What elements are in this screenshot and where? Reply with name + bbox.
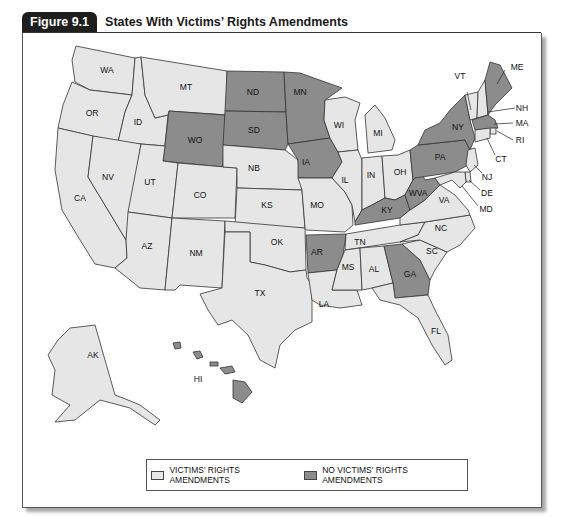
state-RI <box>490 128 496 134</box>
label-CA: CA <box>74 193 86 203</box>
label-TX: TX <box>255 288 266 298</box>
label-CO: CO <box>194 190 207 200</box>
label-PA: PA <box>435 152 446 162</box>
state-HI-oahu <box>193 351 203 359</box>
label-MS: MS <box>342 262 355 272</box>
label-WA: WA <box>100 65 114 75</box>
label-FL: FL <box>431 326 441 336</box>
label-MA: MA <box>516 118 529 128</box>
label-NB: NB <box>248 163 260 173</box>
swatch-dark-icon <box>304 471 317 480</box>
state-HI-maui <box>220 366 235 374</box>
label-NC: NC <box>435 223 447 233</box>
label-ND: ND <box>247 87 259 97</box>
leader-ma <box>494 123 513 124</box>
label-MD: MD <box>479 204 492 214</box>
state-ME <box>485 62 512 115</box>
label-WVA: WVA <box>409 188 428 198</box>
label-WI: WI <box>334 120 344 130</box>
label-MT: MT <box>180 82 192 92</box>
legend-label-amendment: VICTIMS' RIGHTS AMENDMENTS <box>169 465 295 485</box>
label-NH: NH <box>516 103 528 113</box>
label-KY: KY <box>381 205 393 215</box>
label-TN: TN <box>354 237 365 247</box>
figure-title: States With Victims’ Rights Amendments <box>105 15 348 32</box>
label-KS: KS <box>261 200 273 210</box>
label-VA: VA <box>439 195 450 205</box>
label-DE: DE <box>481 188 493 198</box>
label-WO: WO <box>188 135 203 145</box>
legend-label-no-amendment: NO VICTIMS' RIGHTS AMENDMENTS <box>322 465 463 485</box>
state-NJ <box>466 148 478 172</box>
leader-ct <box>487 138 495 155</box>
label-ME: ME <box>511 62 524 72</box>
label-MI: MI <box>373 128 382 138</box>
leader-nj <box>474 165 482 173</box>
label-NV: NV <box>102 172 114 182</box>
label-MN: MN <box>293 87 306 97</box>
us-map: WA OR CA ID NV MT WO UT AZ CO NM ND SD N… <box>22 33 540 463</box>
label-GA: GA <box>404 269 417 279</box>
figure-number-tab: Figure 9.1 <box>22 12 97 32</box>
label-SC: SC <box>426 246 438 256</box>
label-LA: LA <box>319 299 330 309</box>
label-AZ: AZ <box>142 241 153 251</box>
label-CT: CT <box>495 154 506 164</box>
label-IN: IN <box>367 170 376 180</box>
state-HI-bigisland <box>233 380 252 403</box>
leader-ri <box>497 131 513 140</box>
label-RI: RI <box>516 135 525 145</box>
label-MO: MO <box>310 200 324 210</box>
label-AK: AK <box>87 350 99 360</box>
map-legend: VICTIMS' RIGHTS AMENDMENTS NO VICTIMS' R… <box>146 459 468 491</box>
label-ID: ID <box>134 117 143 127</box>
label-HI: HI <box>194 374 203 384</box>
label-OR: OR <box>86 108 99 118</box>
label-NM: NM <box>189 248 202 258</box>
legend-item-no-amendment: NO VICTIMS' RIGHTS AMENDMENTS <box>304 465 463 485</box>
swatch-light-icon <box>151 471 164 480</box>
label-IA: IA <box>302 157 310 167</box>
label-NY: NY <box>452 122 464 132</box>
state-AK <box>48 325 160 425</box>
leader-md <box>462 186 478 206</box>
state-HI-molokai <box>210 362 218 366</box>
leader-de <box>469 180 480 190</box>
label-AR: AR <box>311 247 323 257</box>
label-OK: OK <box>271 237 284 247</box>
state-HI-kauai <box>173 342 181 349</box>
label-NJ: NJ <box>482 172 492 182</box>
legend-item-amendment: VICTIMS' RIGHTS AMENDMENTS <box>151 465 296 485</box>
label-UT: UT <box>144 177 155 187</box>
label-IL: IL <box>341 175 348 185</box>
label-SD: SD <box>248 125 260 135</box>
label-OH: OH <box>394 167 407 177</box>
figure-header: Figure 9.1 States With Victims’ Rights A… <box>22 12 348 32</box>
label-AL: AL <box>369 264 380 274</box>
label-VT: VT <box>455 71 466 81</box>
